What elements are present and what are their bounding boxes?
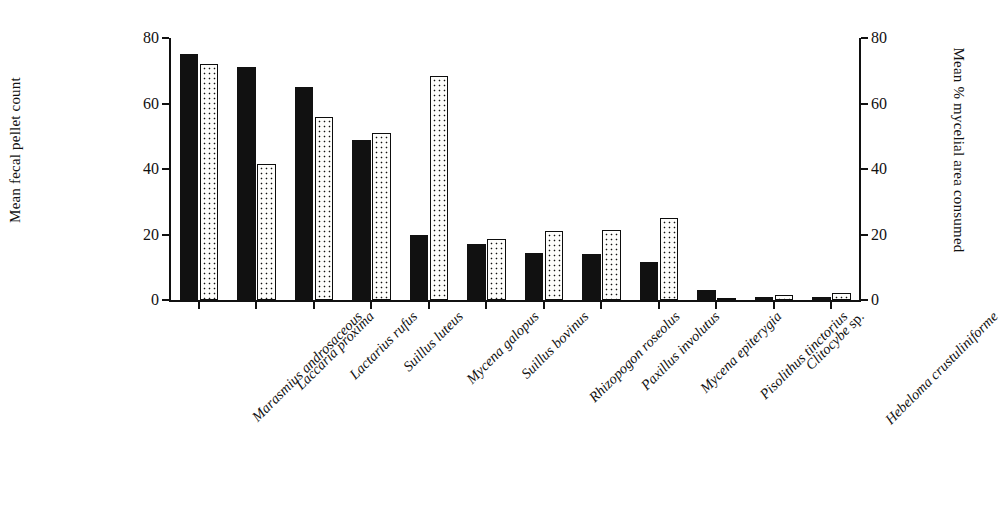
x-axis-label: Hebeloma crustuliniforme <box>882 308 1002 428</box>
bar-mycelial-area-consumed <box>602 230 621 300</box>
bar-group <box>295 38 334 300</box>
y-tick-left-40 <box>162 168 169 170</box>
bar-fecal-pellet-count <box>295 87 314 300</box>
y-ticklabel-left-0: 0 <box>151 292 159 308</box>
bar-group <box>410 38 449 300</box>
y-tick-right-20 <box>861 234 868 236</box>
plot-area: 020406080 020406080 <box>170 38 860 300</box>
y-axis-left-line <box>169 38 171 301</box>
y-tick-right-40 <box>861 168 868 170</box>
bar-mycelial-area-consumed <box>660 218 679 300</box>
bar-group <box>640 38 679 300</box>
bar-fecal-pellet-count <box>410 235 429 301</box>
y-ticklabel-left-20: 20 <box>143 227 159 243</box>
y-tick-left-20 <box>162 234 169 236</box>
y-tick-right-80 <box>861 37 868 39</box>
bar-mycelial-area-consumed <box>257 164 276 300</box>
bar-fecal-pellet-count <box>467 244 486 300</box>
bar-mycelial-area-consumed <box>487 239 506 300</box>
bar-group <box>582 38 621 300</box>
bar-mycelial-area-consumed <box>200 64 219 300</box>
bar-group <box>525 38 564 300</box>
y-ticklabel-left-80: 80 <box>143 30 159 46</box>
bar-mycelial-area-consumed <box>315 117 334 300</box>
bar-group <box>812 38 851 300</box>
bar-fecal-pellet-count <box>237 67 256 300</box>
bar-group <box>467 38 506 300</box>
bar-fecal-pellet-count <box>180 54 199 300</box>
bar-fecal-pellet-count <box>352 140 371 300</box>
bar-fecal-pellet-count <box>582 254 601 300</box>
bar-mycelial-area-consumed <box>430 76 449 300</box>
bar-fecal-pellet-count <box>640 262 659 300</box>
y-tick-left-0 <box>162 299 169 301</box>
bar-mycelial-area-consumed <box>545 231 564 300</box>
y-ticklabel-left-60: 60 <box>143 96 159 112</box>
x-axis-labels: Marasmius androsaceousLaccaria proximaLa… <box>170 300 860 500</box>
y-ticklabel-left-40: 40 <box>143 161 159 177</box>
bar-fecal-pellet-count <box>525 253 544 300</box>
bar-mycelial-area-consumed <box>372 133 391 300</box>
bar-group <box>237 38 276 300</box>
bar-fecal-pellet-count <box>697 290 716 300</box>
bar-group <box>755 38 794 300</box>
y-axis-left-title-text: Mean fecal pellet count <box>7 77 24 223</box>
bar-group <box>352 38 391 300</box>
y-ticklabel-right-0: 0 <box>871 292 879 308</box>
y-tick-right-0 <box>861 299 868 301</box>
y-ticklabel-right-20: 20 <box>871 227 887 243</box>
y-axis-right-title: Mean % mycelial area consumed <box>943 0 973 300</box>
y-ticklabel-right-60: 60 <box>871 96 887 112</box>
y-tick-left-60 <box>162 103 169 105</box>
bar-group <box>180 38 219 300</box>
y-ticklabel-right-80: 80 <box>871 30 887 46</box>
y-tick-left-80 <box>162 37 169 39</box>
y-axis-left-title: Mean fecal pellet count <box>0 0 30 300</box>
y-axis-right-title-text: Mean % mycelial area consumed <box>950 48 967 253</box>
bar-group <box>697 38 736 300</box>
y-tick-right-60 <box>861 103 868 105</box>
y-ticklabel-right-40: 40 <box>871 161 887 177</box>
